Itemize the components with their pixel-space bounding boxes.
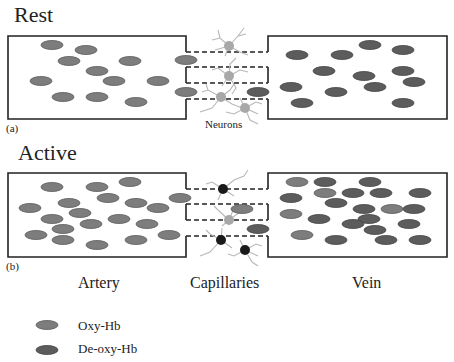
active-panel-tag: (b) (6, 260, 19, 273)
legend-oxy-hb: Oxy-Hb (78, 318, 121, 333)
rest-title: Rest (14, 2, 53, 27)
rest-neurons (200, 28, 262, 124)
active-panel: Active (b) (6, 140, 447, 273)
capillaries-label: Capillaries (190, 274, 259, 292)
rest-vein-cells (247, 41, 425, 108)
artery-label: Artery (78, 274, 120, 292)
oxy-hb-swatch-icon (36, 321, 58, 330)
legend-deoxy-hb: De-oxy-Hb (78, 341, 137, 356)
vein-label: Vein (352, 274, 381, 291)
active-vein-cells (247, 178, 431, 245)
neuron-icon (224, 215, 234, 225)
neurons-label: Neurons (205, 118, 242, 130)
rest-panel-tag: (a) (6, 122, 19, 135)
rest-capillary-1 (186, 52, 268, 67)
legend: Oxy-Hb De-oxy-Hb (36, 318, 137, 356)
hemodynamic-diagram: Rest Neurons (a) (0, 0, 454, 362)
neuron-icon (224, 41, 234, 51)
active-neurons (200, 170, 262, 266)
neuron-icon (240, 103, 250, 113)
neuron-icon (224, 71, 234, 81)
rest-artery-cells (30, 41, 197, 107)
rest-panel: Rest Neurons (a) (6, 2, 447, 135)
deoxy-hb-swatch-icon (36, 346, 58, 355)
neuron-icon (216, 235, 226, 245)
neuron-icon (218, 184, 228, 194)
active-title: Active (18, 140, 77, 165)
neuron-icon (240, 245, 250, 255)
neuron-icon (216, 92, 226, 102)
